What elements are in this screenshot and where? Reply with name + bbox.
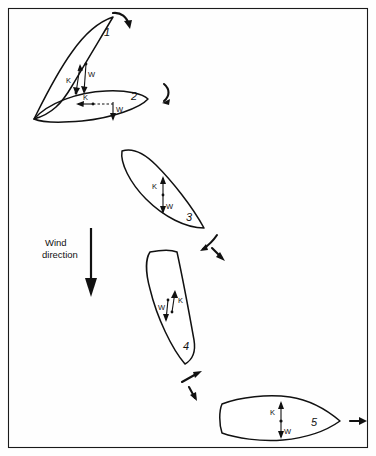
rotation-arrow-1 [113, 13, 132, 29]
vector-label-k-5: K [270, 408, 275, 417]
figure-root: K W 1 K W 2 [0, 0, 376, 456]
hull-position-1 [34, 17, 113, 119]
vector-label-k-1: K [66, 76, 71, 85]
hull-outline-1 [34, 17, 113, 119]
vector-label-w-2: W [116, 105, 124, 114]
vector-group-2: K W [76, 93, 124, 121]
vector-label-k-4: K [178, 296, 183, 305]
rotation-arrow-3 [200, 235, 225, 261]
wind-direction-indicator: Wind direction [42, 228, 97, 297]
rotation-arc-2 [164, 84, 169, 101]
vector-w-origin-4 [167, 299, 170, 302]
vector-label-k-3: K [152, 182, 157, 191]
vector-label-w-4: W [158, 303, 166, 312]
position-number-1: 1 [104, 26, 110, 38]
position-number-2: 2 [130, 90, 137, 102]
rotation-arrow-2 [162, 84, 170, 105]
vector-w-head-2 [110, 113, 116, 121]
rotation-arrowhead-1 [124, 20, 132, 29]
rotation-arrowhead-4b [190, 392, 197, 401]
wind-label-line1: Wind [45, 237, 67, 248]
vector-label-k-2: K [83, 93, 88, 102]
vector-label-w-1: W [88, 70, 96, 79]
vector-label-w-3: W [166, 202, 174, 211]
position-number-3: 3 [186, 211, 193, 223]
position-number-5: 5 [311, 416, 318, 428]
capsize-sequence-diagram: K W 1 K W 2 [0, 0, 376, 456]
wind-arrowhead [85, 278, 97, 297]
motion-arrowhead-5 [359, 417, 367, 425]
vector-k-origin-4 [171, 311, 174, 314]
position-number-4: 4 [183, 340, 189, 352]
vector-k-origin-1 [75, 92, 78, 95]
translation-arrowhead-4 [193, 371, 202, 378]
vector-w-origin-1 [85, 63, 88, 66]
wind-label-line2: direction [42, 249, 78, 260]
rotation-arrow-4 [182, 371, 202, 401]
vector-label-w-5: W [284, 427, 292, 436]
motion-arrow-5 [350, 417, 367, 425]
